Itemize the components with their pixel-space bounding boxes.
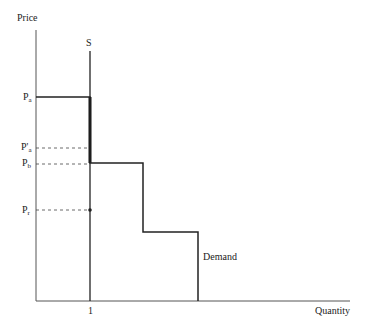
tick-pr: Pr (22, 205, 30, 217)
x-tick-one: 1 (88, 306, 93, 316)
y-axis-label: Price (17, 13, 38, 23)
chart-canvas (0, 0, 368, 332)
demand-curve (36, 97, 198, 301)
tick-pb: Pb (22, 158, 31, 170)
supply-label: S (86, 38, 92, 48)
pr-point (88, 208, 92, 212)
demand-label: Demand (203, 252, 237, 262)
x-axis-label: Quantity (315, 306, 350, 316)
tick-pa: Pa (23, 92, 32, 104)
tick-pa-prime: P'a (21, 142, 31, 154)
